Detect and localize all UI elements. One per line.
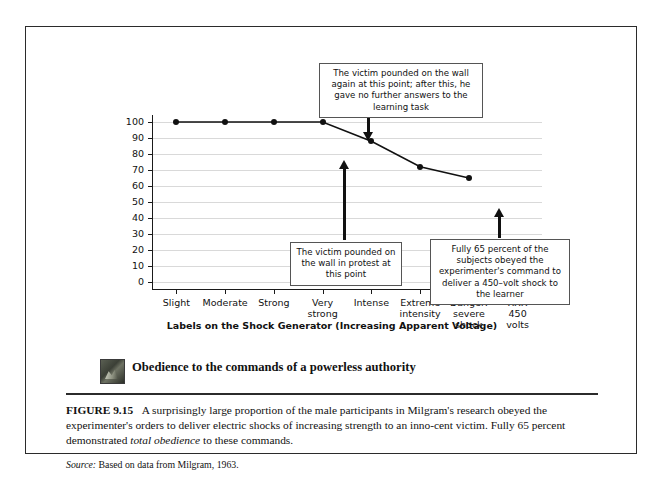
x-tick-mark [176,289,177,294]
y-tick-mark [148,122,152,123]
data-point [271,119,277,125]
gridline [152,170,542,171]
data-point [466,175,472,181]
y-tick-label: 50 [118,197,144,207]
y-tick-label: 100 [118,117,144,127]
y-tick-mark [148,266,152,267]
y-tick-label: 70 [118,165,144,175]
arrow-head-right-icon [494,208,504,217]
y-tick-mark [148,250,152,251]
x-axis-title: Labels on the Shock Generator (Increasin… [26,320,638,331]
arrow-head-top-icon [363,132,373,141]
data-point [173,119,179,125]
gridline [152,202,542,203]
y-tick-mark [148,154,152,155]
y-tick-label: 40 [118,213,144,223]
y-tick-label: 10 [118,261,144,271]
figure-source-line: Source: Based on data from Milgram, 1963… [66,459,600,470]
caption-text-part2: to these commands. [200,434,293,446]
gridline [152,186,542,187]
caption-emphasis: total obedience [130,434,200,446]
milgram-photo-thumbnail [100,359,125,384]
y-axis-line [152,115,153,290]
y-tick-mark [148,170,152,171]
gridline [152,122,542,123]
figure-caption: FIGURE 9.15 A surprisingly large proport… [66,403,600,449]
y-tick-label: 90 [118,133,144,143]
y-tick-mark [148,282,152,283]
callout-box-middle: The victim pounded on the wall in protes… [290,242,402,286]
y-tick-label: 30 [118,229,144,239]
y-tick-label: 60 [118,181,144,191]
chart-region: Percentage of Subjects Who Obey the Expe… [26,27,638,332]
x-tick-mark [420,289,421,294]
figure-number: FIGURE 9.15 [66,404,133,416]
y-tick-label: 20 [118,245,144,255]
gridline [152,138,542,139]
y-tick-mark [148,234,152,235]
callout-box-right: Fully 65 percent of the subjects obeyed … [430,239,570,305]
y-tick-mark [148,138,152,139]
gridline [152,154,542,155]
callout-box-top: The victim pounded on the wall again at … [319,63,483,118]
section-heading-row: Obedience to the commands of a powerless… [26,357,638,385]
caption-spacer [133,404,142,416]
x-tick-mark [371,289,372,294]
x-tick-mark [225,289,226,294]
y-tick-label: 80 [118,149,144,159]
source-label: Source: [66,459,96,470]
arrow-head-mid-icon [339,160,349,169]
data-point [417,164,423,170]
source-text: Based on data from Milgram, 1963. [99,459,239,470]
figure-frame: Percentage of Subjects Who Obey the Expe… [25,26,637,454]
gridline [152,218,542,219]
y-tick-mark [148,202,152,203]
y-tick-mark [148,218,152,219]
y-axis-title: Percentage of Subjects Who Obey the Expe… [0,0,10,83]
x-tick-mark [323,289,324,294]
y-tick-label: 0 [118,277,144,287]
y-tick-mark [148,186,152,187]
arrow-shaft-mid [343,168,346,240]
arrow-shaft-right [498,216,501,238]
caption-divider [66,393,598,395]
data-point [222,119,228,125]
section-heading-text: Obedience to the commands of a powerless… [132,360,416,375]
data-point [320,119,326,125]
x-tick-mark [274,289,275,294]
gridline [152,234,542,235]
